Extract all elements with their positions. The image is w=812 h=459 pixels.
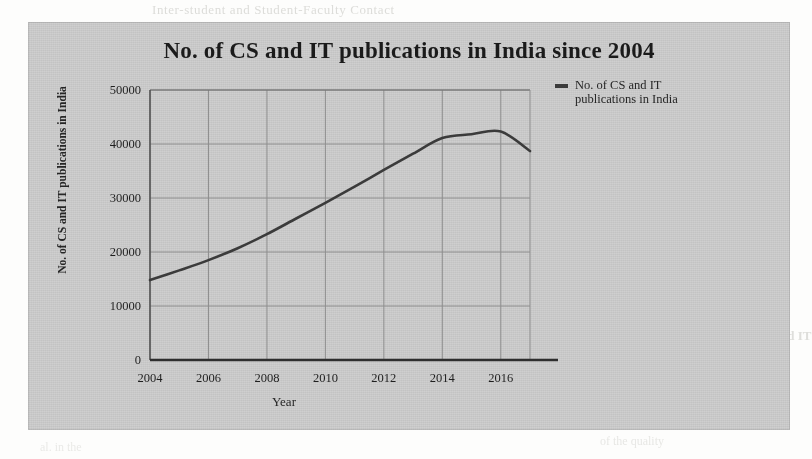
bleed-text-line: al. in the [40, 440, 82, 455]
x-axis-tick-label: 2014 [430, 371, 456, 385]
y-axis-tick-label: 50000 [110, 83, 141, 97]
bleed-text-line: of the quality [600, 434, 664, 449]
x-axis-tick-label: 2008 [254, 371, 279, 385]
x-axis-title: Year [28, 394, 540, 410]
x-axis-tick-label: 2006 [196, 371, 221, 385]
chart-figure: No. of CS and IT publications in India s… [28, 22, 790, 430]
y-axis-tick-label: 40000 [110, 137, 141, 151]
legend-entry-label: No. of CS and IT publications in India [575, 78, 695, 106]
bleed-text-line: Inter-student and Student-Faculty Contac… [152, 2, 395, 18]
y-axis-title: No. of CS and IT publications in India [56, 70, 68, 290]
x-axis-tick-label: 2010 [313, 371, 338, 385]
y-axis-tick-label: 0 [135, 353, 141, 367]
chart-title: No. of CS and IT publications in India s… [28, 38, 790, 64]
x-axis-tick-label: 2012 [371, 371, 396, 385]
y-axis-tick-label: 30000 [110, 191, 141, 205]
y-axis-tick-label: 10000 [110, 299, 141, 313]
data-series-line [150, 131, 530, 280]
x-axis-tick-label: 2016 [488, 371, 513, 385]
y-axis-tick-label: 20000 [110, 245, 141, 259]
chart-legend: No. of CS and IT publications in India [555, 78, 695, 106]
x-axis-tick-label: 2004 [138, 371, 164, 385]
legend-line-marker-icon [555, 84, 568, 88]
